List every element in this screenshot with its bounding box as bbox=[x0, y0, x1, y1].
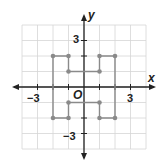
x-tick-label-3: 3 bbox=[127, 92, 133, 104]
vertex-point bbox=[97, 100, 102, 105]
vertex-point bbox=[66, 69, 71, 74]
vertex-point bbox=[66, 100, 71, 105]
vertex-point bbox=[97, 116, 102, 121]
vertex-point bbox=[51, 116, 56, 121]
y-tick-label-neg3: −3 bbox=[63, 130, 76, 142]
vertex-point bbox=[66, 116, 71, 121]
vertex-point bbox=[113, 54, 118, 59]
coordinate-plane: x y O −3 3 3 −3 bbox=[0, 0, 161, 167]
vertex-point bbox=[113, 116, 118, 121]
y-axis-arrow-down-icon bbox=[81, 153, 87, 160]
vertex-point bbox=[51, 54, 56, 59]
vertex-point bbox=[97, 69, 102, 74]
x-tick-label-neg3: −3 bbox=[27, 92, 40, 104]
vertex-point bbox=[97, 54, 102, 59]
y-axis-arrow-up-icon bbox=[81, 14, 87, 21]
y-tick-label-3: 3 bbox=[73, 33, 79, 45]
y-axis-label: y bbox=[87, 8, 96, 22]
origin-label: O bbox=[73, 88, 83, 102]
x-axis-arrow-left-icon bbox=[12, 84, 19, 90]
vertex-point bbox=[66, 54, 71, 59]
axes bbox=[12, 14, 156, 160]
x-axis-label: x bbox=[147, 71, 156, 85]
